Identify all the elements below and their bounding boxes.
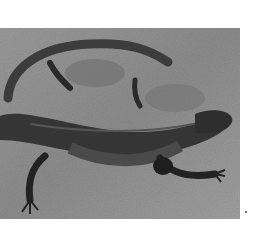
lizard-photo [0, 28, 240, 219]
image-speck [245, 211, 247, 213]
lizard-illustration [0, 28, 240, 219]
